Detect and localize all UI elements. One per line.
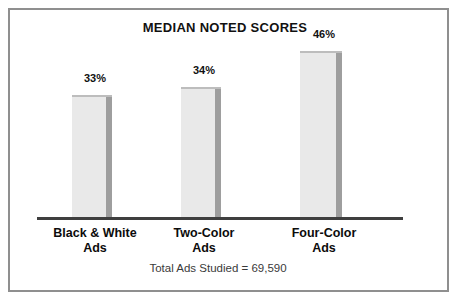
category-label-four-color: Four-Color Ads xyxy=(254,226,394,256)
bar-black-white xyxy=(72,95,112,220)
category-label-line1: Two-Color xyxy=(134,226,274,241)
chart-canvas: MEDIAN NOTED SCORES 33% 34% 46% Black & … xyxy=(0,0,458,301)
category-label-two-color: Two-Color Ads xyxy=(134,226,274,256)
bar-value-label: 33% xyxy=(72,72,118,84)
x-axis-line xyxy=(37,217,403,220)
bar-value-label: 46% xyxy=(300,28,348,40)
bar-shadow xyxy=(215,89,221,220)
chart-title: MEDIAN NOTED SCORES xyxy=(8,20,442,35)
bar-shadow xyxy=(336,53,342,220)
bar-four-color xyxy=(300,51,342,220)
category-label-line2: Ads xyxy=(254,241,394,256)
bar-value-label: 34% xyxy=(181,64,227,76)
bar-two-color xyxy=(181,87,221,220)
category-label-line1: Four-Color xyxy=(254,226,394,241)
footnote-total-ads: Total Ads Studied = 69,590 xyxy=(3,262,433,274)
bar-group-two-color: 34% xyxy=(181,87,227,220)
bar-group-black-white: 33% xyxy=(72,95,118,220)
bar-group-four-color: 46% xyxy=(300,51,348,220)
bar-shadow xyxy=(106,97,112,220)
category-label-line2: Ads xyxy=(134,241,274,256)
